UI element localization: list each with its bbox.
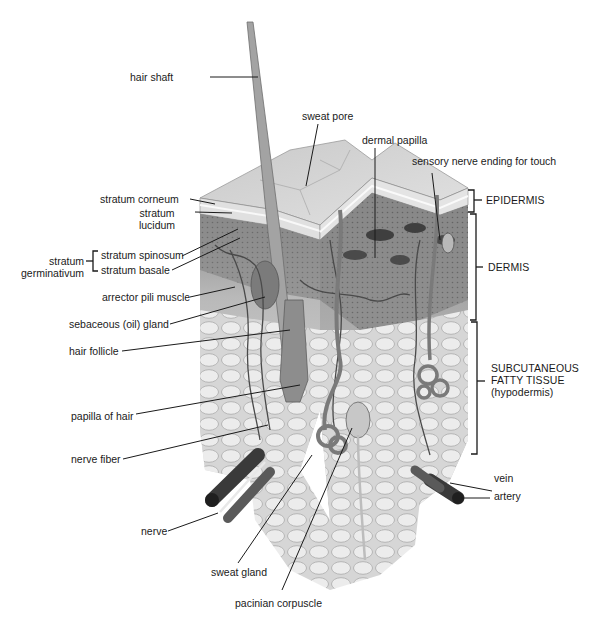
label-nerve-fiber: nerve fiber [71, 453, 121, 465]
sensory-nerve-ending [442, 233, 454, 253]
label-dermis: DERMIS [488, 261, 529, 273]
label-hair-shaft: hair shaft [130, 71, 173, 83]
label-subcutaneous-line3: (hypodermis) [491, 386, 579, 398]
label-pacinian-corpuscle: pacinian corpuscle [235, 597, 322, 609]
label-sebaceous-gland: sebaceous (oil) gland [69, 318, 169, 330]
label-artery: artery [494, 490, 521, 502]
label-sweat-pore: sweat pore [302, 110, 353, 122]
label-hair-follicle: hair follicle [69, 345, 119, 357]
skin-cross-section-illustration [0, 0, 591, 623]
label-vein: vein [494, 472, 513, 484]
sebaceous-gland [251, 261, 279, 309]
label-dermal-papilla: dermal papilla [362, 134, 427, 146]
label-subcutaneous-line1: SUBCUTANEOUS [491, 362, 579, 374]
label-epidermis: EPIDERMIS [486, 194, 545, 206]
label-papilla-of-hair: papilla of hair [71, 410, 133, 422]
label-sweat-gland: sweat gland [211, 566, 267, 578]
label-stratum-germinativum-line2: germinativum [14, 267, 84, 279]
label-nerve: nerve [141, 525, 167, 537]
label-stratum-lucidum-line2: lucidum [126, 219, 188, 231]
label-stratum-spinosum: stratum spinosum [101, 249, 184, 261]
label-subcutaneous-fatty-tissue: SUBCUTANEOUS FATTY TISSUE (hypodermis) [491, 362, 579, 398]
label-stratum-corneum: stratum corneum [100, 193, 179, 205]
label-subcutaneous-line2: FATTY TISSUE [491, 374, 579, 386]
label-stratum-germinativum: stratum germinativum [14, 255, 84, 279]
label-arrector-pili-muscle: arrector pili muscle [102, 291, 190, 303]
label-stratum-germinativum-line1: stratum [14, 255, 84, 267]
label-stratum-lucidum: stratum lucidum [126, 207, 188, 231]
label-stratum-basale: stratum basale [101, 264, 170, 276]
label-stratum-lucidum-line1: stratum [126, 207, 188, 219]
label-sensory-nerve-ending: sensory nerve ending for touch [412, 155, 556, 167]
